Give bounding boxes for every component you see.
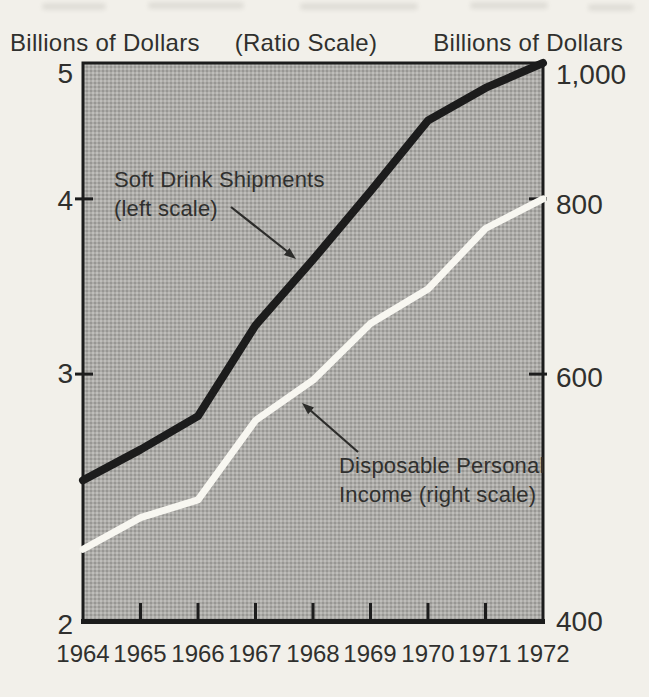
chart-canvas [0, 0, 649, 697]
soft-drink-series-label-line1: Soft Drink Shipments [114, 165, 325, 194]
soft-drink-shipments-line [83, 63, 543, 480]
soft-drink-series-label-line2: (left scale) [114, 194, 325, 223]
income-series-label-line2: Income (right scale) [339, 480, 545, 509]
soft-drink-series-label: Soft Drink Shipments (left scale) [114, 165, 325, 223]
income-series-label-line1: Disposable Personal [339, 451, 545, 480]
income-annotation-arrow [302, 403, 358, 452]
plot-frame [83, 63, 543, 621]
income-series-label: Disposable Personal Income (right scale) [339, 451, 545, 509]
chart-page: Billions of Dollars (Ratio Scale) Billio… [0, 0, 649, 697]
